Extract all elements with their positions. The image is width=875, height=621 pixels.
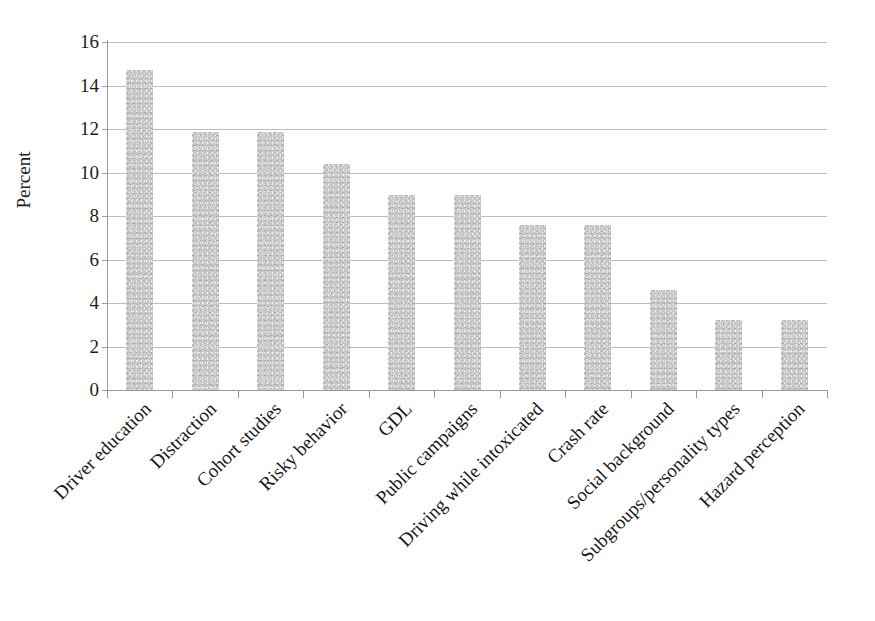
bar: [781, 320, 808, 390]
plot-area: [107, 42, 827, 390]
x-tick-label: GDL: [374, 398, 417, 441]
bar: [192, 132, 219, 390]
y-tick-label: 10: [80, 163, 99, 182]
bar: [257, 132, 284, 390]
x-tick-mark: [696, 391, 697, 398]
y-tick-mark: [102, 129, 108, 130]
bar: [126, 70, 153, 390]
bar: [519, 225, 546, 390]
gridline: [107, 129, 827, 130]
y-tick-label: 0: [90, 380, 100, 399]
bar: [715, 320, 742, 390]
gridline: [107, 42, 827, 43]
y-axis-tick-labels: 1614121086420: [55, 42, 99, 390]
y-tick-mark: [102, 390, 108, 391]
x-tick-label: Driver education: [49, 398, 155, 504]
x-tick-mark: [565, 391, 566, 398]
y-axis-title: Percent: [0, 0, 48, 360]
x-tick-mark: [631, 391, 632, 398]
y-tick-mark: [102, 216, 108, 217]
bar: [454, 195, 481, 390]
x-tick-mark: [107, 391, 108, 398]
x-axis-tick-labels: Driver educationDistractionCohort studie…: [107, 398, 875, 618]
y-tick-mark: [102, 173, 108, 174]
x-tick-mark: [172, 391, 173, 398]
y-tick-mark: [102, 42, 108, 43]
x-tick-mark: [303, 391, 304, 398]
x-tick-mark: [762, 391, 763, 398]
bar: [323, 164, 350, 390]
y-axis-title-label: Percent: [13, 152, 35, 209]
y-tick-label: 6: [90, 250, 100, 269]
bar: [584, 225, 611, 390]
y-tick-mark: [102, 86, 108, 87]
y-tick-label: 12: [80, 119, 99, 138]
y-tick-mark: [102, 260, 108, 261]
x-tick-mark: [238, 391, 239, 398]
y-tick-label: 8: [90, 206, 100, 225]
bar: [650, 290, 677, 390]
bar: [388, 195, 415, 390]
y-tick-label: 4: [90, 293, 100, 312]
y-tick-mark: [102, 303, 108, 304]
y-tick-label: 2: [90, 337, 100, 356]
x-tick-mark: [500, 391, 501, 398]
x-tick-mark: [827, 391, 828, 398]
x-tick-mark: [369, 391, 370, 398]
gridline: [107, 86, 827, 87]
x-tick-mark: [434, 391, 435, 398]
y-tick-label: 16: [80, 32, 99, 51]
y-tick-mark: [102, 347, 108, 348]
y-tick-label: 14: [80, 76, 99, 95]
chart-page: Percent 1614121086420 Driver educationDi…: [0, 0, 875, 621]
